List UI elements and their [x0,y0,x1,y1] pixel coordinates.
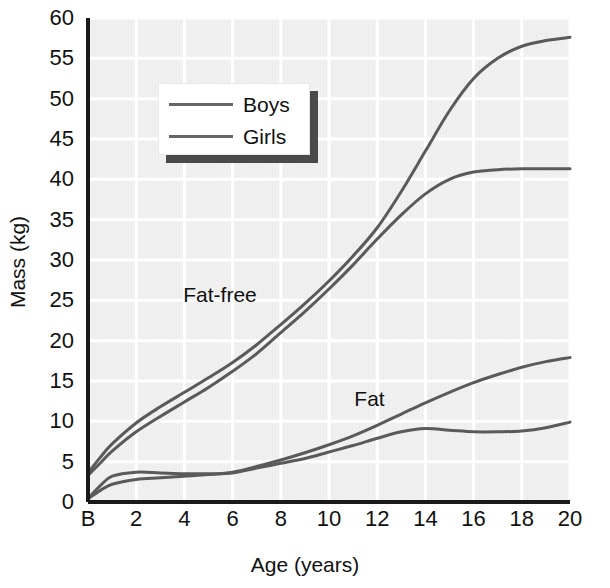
legend: Boys Girls [158,83,310,155]
x-tick-label: 2 [130,508,142,530]
legend-line-boys-icon [169,103,233,106]
x-tick-label: 8 [275,508,287,530]
x-tick-label: 10 [317,508,341,530]
legend-label-girls: Girls [243,126,286,147]
x-axis-title: Age (years) [0,553,610,577]
x-tick-label: 4 [178,508,190,530]
x-tick-label: 16 [461,508,485,530]
curve-annotation-fat: Fat [354,387,384,411]
x-tick-label: B [81,508,96,530]
x-tick-label: 20 [558,508,582,530]
y-axis-title: Mass (kg) [6,192,30,332]
legend-entry-girls: Girls [159,121,309,151]
legend-label-boys: Boys [243,94,290,115]
x-tick-label: 14 [413,508,437,530]
x-tick-label: 18 [510,508,534,530]
legend-entry-boys: Boys [159,89,309,119]
legend-line-girls-icon [169,135,233,138]
x-tick-label: 6 [226,508,238,530]
curve-annotation-fat-free: Fat-free [183,283,257,307]
x-tick-label: 12 [365,508,389,530]
chart-figure: 051015202530354045505560 B24681012141618… [0,0,610,588]
